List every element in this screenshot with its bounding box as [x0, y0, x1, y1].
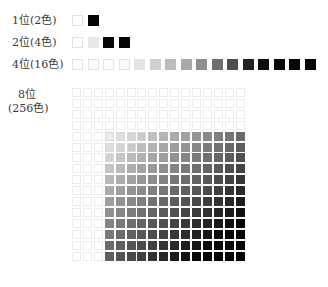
swatch-8bit	[203, 132, 212, 141]
swatch-8bit	[137, 241, 146, 250]
swatch-8bit	[214, 197, 223, 206]
swatch-8bit	[225, 153, 234, 162]
swatch-8bit	[192, 197, 201, 206]
swatch-8bit	[181, 197, 190, 206]
swatch-8bit	[236, 197, 245, 206]
swatch-8bit	[203, 99, 212, 108]
label-256-colors: (256色)	[8, 102, 49, 115]
swatch-8bit	[94, 164, 103, 173]
swatch-8bit	[159, 121, 168, 130]
swatches-4bit-swatch	[258, 59, 269, 70]
swatch-8bit	[170, 208, 179, 217]
swatch-8bit	[72, 121, 81, 130]
swatch-8bit	[203, 241, 212, 250]
swatch-8bit	[159, 175, 168, 184]
swatch-8bit	[72, 153, 81, 162]
swatch-8bit	[127, 132, 136, 141]
swatches-2bit-swatch	[119, 37, 130, 48]
swatch-8bit	[159, 153, 168, 162]
swatch-8bit	[148, 241, 157, 250]
label-4bit: 4位(16色)	[12, 58, 64, 71]
swatch-8bit	[192, 121, 201, 130]
swatch-8bit	[127, 110, 136, 119]
swatch-8bit	[105, 164, 114, 173]
swatch-8bit	[116, 164, 125, 173]
swatch-8bit	[225, 164, 234, 173]
swatch-8bit	[225, 132, 234, 141]
swatch-8bit	[127, 153, 136, 162]
swatches-2bit-swatch	[72, 37, 83, 48]
swatch-8bit	[170, 241, 179, 250]
swatch-8bit	[94, 110, 103, 119]
swatches-2bit-swatch	[103, 37, 114, 48]
swatch-8bit	[105, 219, 114, 228]
swatch-8bit	[105, 241, 114, 250]
swatch-8bit	[83, 110, 92, 119]
swatch-8bit	[105, 175, 114, 184]
swatch-8bit	[236, 175, 245, 184]
swatch-8bit	[72, 252, 81, 261]
swatch-8bit	[181, 241, 190, 250]
swatch-8bit	[137, 110, 146, 119]
swatch-8bit	[137, 164, 146, 173]
swatch-8bit	[105, 88, 114, 97]
swatch-8bit	[192, 99, 201, 108]
swatch-8bit	[181, 132, 190, 141]
swatch-8bit	[236, 153, 245, 162]
swatch-8bit	[181, 153, 190, 162]
swatch-8bit	[83, 164, 92, 173]
swatch-8bit	[148, 208, 157, 217]
swatch-8bit	[236, 241, 245, 250]
swatch-8bit	[203, 252, 212, 261]
swatch-8bit	[137, 197, 146, 206]
swatches-4bit-swatch	[274, 59, 285, 70]
swatch-8bit	[94, 153, 103, 162]
swatch-8bit	[116, 241, 125, 250]
swatch-8bit	[170, 164, 179, 173]
swatch-8bit	[72, 175, 81, 184]
swatch-8bit	[225, 99, 234, 108]
swatch-8bit	[203, 164, 212, 173]
swatch-8bit	[83, 241, 92, 250]
label-2bit: 2位(4色)	[12, 36, 57, 49]
swatch-8bit	[181, 252, 190, 261]
swatches-1bit-swatch	[88, 15, 99, 26]
swatch-8bit	[192, 230, 201, 239]
swatch-8bit	[105, 99, 114, 108]
swatch-8bit	[148, 99, 157, 108]
swatch-8bit	[105, 186, 114, 195]
swatch-8bit	[159, 143, 168, 152]
swatch-8bit	[214, 143, 223, 152]
swatch-8bit	[127, 230, 136, 239]
swatch-8bit	[225, 186, 234, 195]
swatch-8bit	[127, 164, 136, 173]
swatch-8bit	[83, 252, 92, 261]
swatch-8bit	[170, 230, 179, 239]
swatches-4bit-swatch	[289, 59, 300, 70]
swatch-8bit	[203, 143, 212, 152]
swatch-8bit	[214, 153, 223, 162]
swatch-8bit	[203, 88, 212, 97]
swatch-8bit	[116, 230, 125, 239]
swatch-8bit	[159, 197, 168, 206]
swatch-8bit	[116, 121, 125, 130]
swatch-8bit	[170, 197, 179, 206]
swatch-8bit	[225, 241, 234, 250]
swatch-8bit	[159, 230, 168, 239]
swatch-8bit	[72, 164, 81, 173]
swatches-4bit-swatch	[227, 59, 238, 70]
swatch-8bit	[236, 252, 245, 261]
swatch-8bit	[83, 99, 92, 108]
swatch-8bit	[105, 153, 114, 162]
swatch-8bit	[214, 88, 223, 97]
swatch-8bit	[116, 175, 125, 184]
swatch-8bit	[192, 110, 201, 119]
swatch-8bit	[225, 88, 234, 97]
swatch-8bit	[225, 230, 234, 239]
swatch-8bit	[94, 219, 103, 228]
swatch-8bit	[72, 208, 81, 217]
swatch-8bit	[148, 164, 157, 173]
swatch-8bit	[94, 121, 103, 130]
swatch-8bit	[83, 186, 92, 195]
swatch-8bit	[181, 208, 190, 217]
